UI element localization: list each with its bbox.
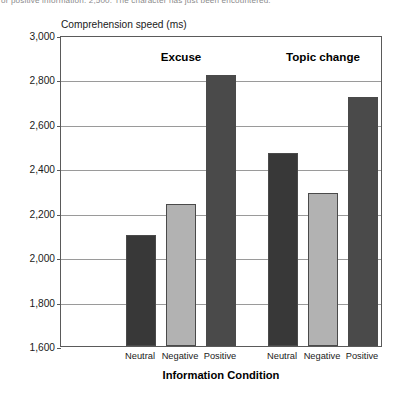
group-heading: Excuse (161, 50, 202, 63)
x-axis-tick-label: Negative (304, 351, 341, 361)
y-axis-tick-mark (57, 348, 61, 349)
y-axis-tick-mark (57, 170, 61, 171)
y-axis-tick-label: 2,800 (3, 75, 55, 86)
bar (126, 235, 156, 346)
bar-chart: Comprehension speed (ms) 3,0002,8002,600… (0, 0, 402, 397)
bar (206, 75, 236, 346)
x-axis-tick-label: Neutral (267, 351, 297, 361)
y-axis-tick-mark (57, 215, 61, 216)
x-axis-tick-label: Positive (204, 351, 237, 361)
plot-area: ExcuseTopic change (60, 36, 382, 347)
y-axis-tick-labels: 3,0002,8002,6002,4002,2002,0001,8001,600 (0, 36, 55, 347)
y-axis-tick-label: 3,000 (3, 31, 55, 42)
y-axis-tick-mark (57, 304, 61, 305)
y-axis-tick-mark (57, 37, 61, 38)
y-axis-tick-mark (57, 126, 61, 127)
y-axis-tick-label: 2,400 (3, 164, 55, 175)
y-axis-tick-label: 2,200 (3, 208, 55, 219)
x-axis-tick-label: Positive (346, 351, 379, 361)
x-axis-tick-labels: NeutralNegativePositiveNeutralNegativePo… (0, 351, 402, 367)
bar (166, 204, 196, 346)
group-heading: Topic change (286, 50, 360, 63)
y-axis-tick-label: 1,800 (3, 297, 55, 308)
y-axis-tick-mark (57, 259, 61, 260)
y-axis-tick-label: 2,000 (3, 253, 55, 264)
y-axis-tick-mark (57, 81, 61, 82)
bar (308, 193, 338, 346)
bar (268, 153, 298, 346)
x-axis-tick-label: Negative (162, 351, 199, 361)
y-axis-title: Comprehension speed (ms) (61, 19, 187, 30)
y-axis-tick-label: 2,600 (3, 119, 55, 130)
bar (348, 97, 378, 346)
x-axis-title: Information Condition (163, 369, 280, 381)
x-axis-tick-label: Neutral (125, 351, 155, 361)
